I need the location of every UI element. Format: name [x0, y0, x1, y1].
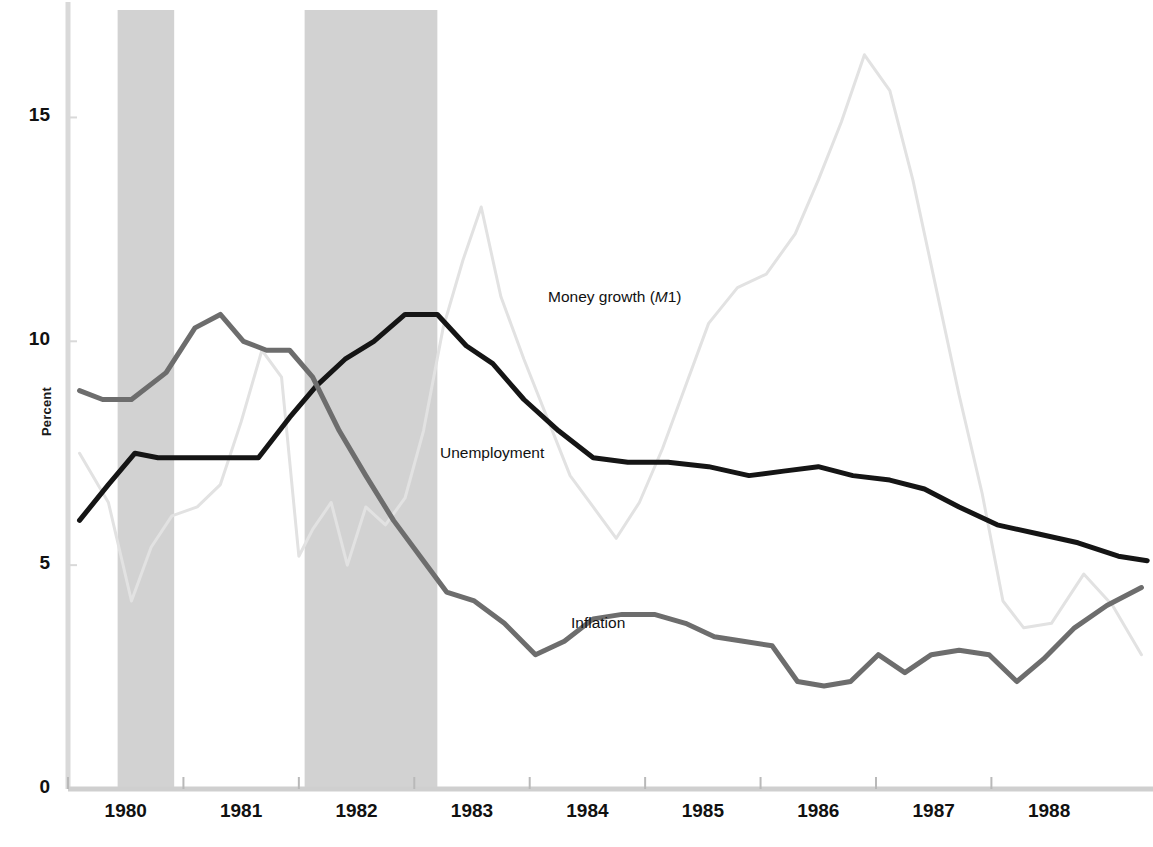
axis-lines: [68, 2, 1153, 789]
x-tick-label: 1980: [81, 800, 171, 822]
x-tick-label: 1987: [889, 800, 979, 822]
chart-figure: Percent 051015 1980198119821983198419851…: [0, 0, 1153, 847]
series-label-money-growth: Money growth (M1): [548, 288, 682, 306]
x-tick-label: 1986: [773, 800, 863, 822]
x-tick-label: 1983: [427, 800, 517, 822]
series-lines: [80, 55, 1148, 686]
series-label-inflation: Inflation: [571, 614, 625, 632]
x-tick-label: 1985: [658, 800, 748, 822]
x-tick-label: 1984: [542, 800, 632, 822]
x-tick-label: 1981: [196, 800, 286, 822]
x-tick-label: 1988: [1004, 800, 1094, 822]
y-tick-label: 15: [8, 104, 50, 126]
series-label-unemployment: Unemployment: [440, 444, 544, 462]
y-axis-title: Percent: [39, 352, 54, 472]
y-tick-label: 0: [8, 776, 50, 798]
series-line-money-growth-m1: [80, 55, 1142, 655]
x-tick-label: 1982: [312, 800, 402, 822]
y-tick-label: 5: [8, 552, 50, 574]
chart-plot-area: [0, 0, 1153, 847]
recession-bands: [118, 10, 438, 789]
y-tick-label: 10: [8, 328, 50, 350]
